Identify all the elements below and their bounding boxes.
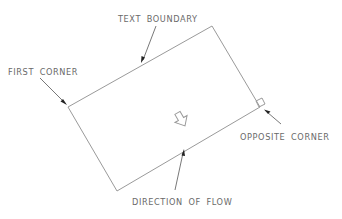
label-opposite-corner: OPPOSITE CORNER	[240, 132, 330, 142]
diagram-canvas: TEXT BOUNDARY FIRST CORNER OPPOSITE CORN…	[0, 0, 342, 219]
leader-opposite-corner	[264, 110, 281, 125]
leader-text-boundary	[141, 26, 156, 63]
label-direction-of-flow: DIRECTION OF FLOW	[132, 197, 232, 207]
label-first-corner: FIRST CORNER	[8, 67, 78, 77]
leader-first-corner	[40, 78, 67, 105]
leader-direction-of-flow	[175, 149, 185, 190]
label-text-boundary: TEXT BOUNDARY	[117, 14, 198, 24]
text-boundary-rectangle	[68, 26, 260, 191]
flow-direction-arrow-icon	[171, 109, 191, 129]
